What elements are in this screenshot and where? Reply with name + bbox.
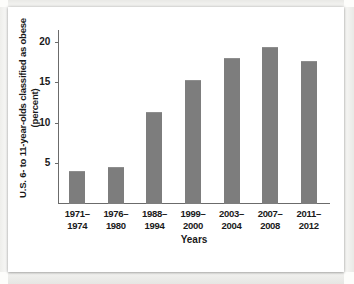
page-edge-top — [8, 0, 344, 7]
bar — [146, 112, 162, 204]
x-tick-label: 1999–2000 — [172, 208, 215, 231]
y-tick-label: 10 — [0, 118, 50, 128]
x-tick-label: 1976–1980 — [95, 208, 138, 231]
x-tick-label-line: 2011– — [287, 208, 330, 220]
bar — [224, 58, 240, 204]
x-tick-label-line: 2007– — [249, 208, 292, 220]
x-tick-label-line: 2004 — [210, 220, 253, 232]
bar — [262, 47, 278, 204]
y-tick-label: 20 — [0, 37, 50, 47]
bar — [69, 171, 85, 204]
x-axis-title: Years — [58, 234, 330, 245]
plot-area — [58, 30, 328, 203]
x-tick-label-line: 2012 — [287, 220, 330, 232]
y-tick-label: 5 — [0, 158, 50, 168]
x-tick-label: 2011–2012 — [287, 208, 330, 231]
page-edge-right — [344, 7, 354, 272]
x-tick-label-line: 2000 — [172, 220, 215, 232]
bar — [301, 61, 317, 204]
x-tick-label-line: 1976– — [95, 208, 138, 220]
x-tick-label-line: 2003– — [210, 208, 253, 220]
x-tick-label: 1988–1994 — [133, 208, 176, 231]
bar — [108, 167, 124, 204]
x-tick-label-line: 1999– — [172, 208, 215, 220]
y-tick-label: 15 — [0, 77, 50, 87]
x-tick-label-line: 1974 — [56, 220, 99, 232]
x-tick-label: 1971–1974 — [56, 208, 99, 231]
x-tick-label-line: 2008 — [249, 220, 292, 232]
x-tick-label: 2003–2004 — [210, 208, 253, 231]
bar — [185, 80, 201, 204]
page-edge-bottom — [8, 272, 344, 284]
x-tick-label-line: 1994 — [133, 220, 176, 232]
x-tick-label-line: 1980 — [95, 220, 138, 232]
x-tick-label-line: 1988– — [133, 208, 176, 220]
x-tick-label-line: 1971– — [56, 208, 99, 220]
x-tick-label: 2007–2008 — [249, 208, 292, 231]
figure-container: U.S. 6- to 11-year-olds classified as ob… — [0, 0, 354, 284]
